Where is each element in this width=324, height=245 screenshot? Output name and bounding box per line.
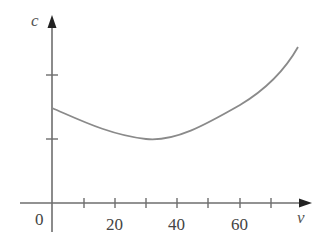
cost-curve (52, 47, 298, 139)
x-axis-arrow-icon (299, 199, 312, 208)
x-tick-label-60: 60 (231, 215, 248, 234)
y-axis-arrow-icon (48, 15, 57, 28)
y-axis (48, 15, 57, 232)
x-tick-label-40: 40 (168, 215, 185, 234)
cost-vs-speed-chart: c v 0 20 40 60 (0, 0, 324, 245)
x-tick-label-20: 20 (106, 215, 123, 234)
origin-label: 0 (35, 210, 44, 229)
x-axis-label: v (297, 208, 305, 227)
y-axis-label: c (31, 11, 39, 30)
x-axis (20, 199, 312, 208)
